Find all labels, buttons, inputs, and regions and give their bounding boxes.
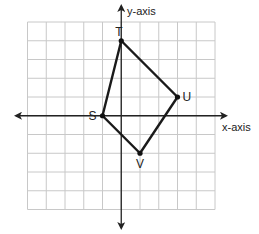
vertex-label-v: V (136, 157, 144, 171)
x-axis-label: x-axis (222, 121, 251, 133)
vertex-point-v (137, 151, 142, 156)
y-axis-label: y-axis (127, 5, 156, 17)
vertex-label-t: T (115, 25, 123, 39)
vertex-point-t (119, 38, 124, 43)
vertex-label-u: U (183, 90, 192, 104)
vertex-point-s (100, 113, 105, 118)
vertex-point-u (175, 94, 180, 99)
coordinate-grid-diagram: y-axis x-axis STUV (0, 0, 259, 234)
vertex-label-s: S (89, 109, 97, 123)
